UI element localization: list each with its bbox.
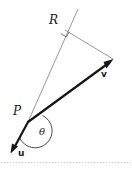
vector-diagram: R P θ v u bbox=[0, 0, 132, 169]
label-vector-v: v bbox=[101, 70, 107, 79]
diagram-canvas bbox=[0, 0, 132, 169]
angle-theta-arc bbox=[20, 116, 53, 148]
vector-u-arrowhead bbox=[11, 144, 19, 154]
label-R: R bbox=[49, 14, 58, 26]
vector-v-arrowhead bbox=[104, 59, 114, 69]
label-theta: θ bbox=[39, 127, 45, 137]
label-P: P bbox=[13, 105, 21, 117]
vector-v-shaft bbox=[28, 62, 110, 122]
projection-segment-line bbox=[65, 30, 113, 59]
label-vector-u: u bbox=[18, 149, 24, 158]
vector-u-shaft bbox=[14, 122, 28, 148]
